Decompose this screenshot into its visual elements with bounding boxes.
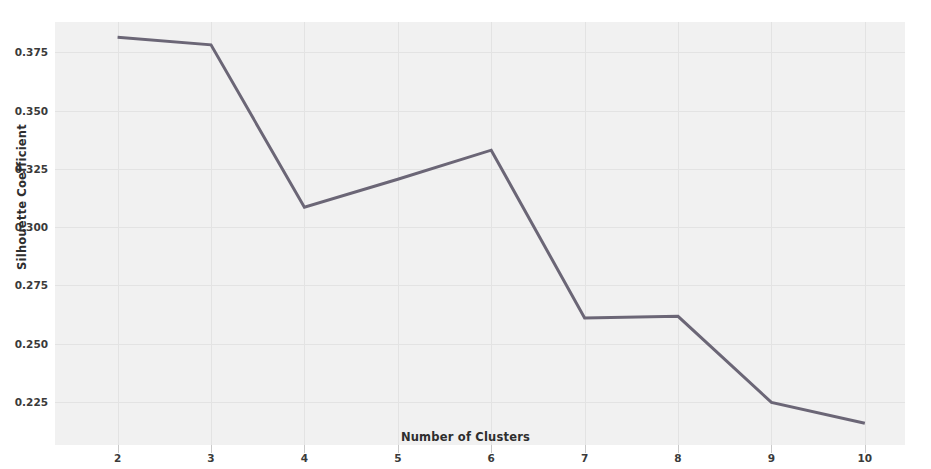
x-axis-tick-label: 2 bbox=[98, 452, 138, 464]
x-axis-tick-label: 10 bbox=[845, 452, 885, 464]
x-axis-tick-label: 7 bbox=[565, 452, 605, 464]
y-axis-label: Silhouette Coefficient bbox=[15, 87, 29, 307]
x-axis-tick-label: 8 bbox=[658, 452, 698, 464]
x-axis-tick-label: 4 bbox=[284, 452, 324, 464]
figure: 0.2250.2500.2750.3000.3250.3500.375 2345… bbox=[0, 0, 931, 469]
x-axis-tick-label: 3 bbox=[191, 452, 231, 464]
plot-area bbox=[55, 22, 905, 445]
line-series-silhouette-coefficient bbox=[118, 37, 865, 423]
y-axis-tick-label: 0.375 bbox=[0, 46, 48, 58]
y-axis-tick-label: 0.225 bbox=[0, 396, 48, 408]
x-axis-label: Number of Clusters bbox=[0, 430, 931, 444]
x-axis-tick-label: 5 bbox=[378, 452, 418, 464]
x-axis-tick-label: 9 bbox=[751, 452, 791, 464]
x-axis-tick-label: 6 bbox=[471, 452, 511, 464]
y-axis-tick-label: 0.250 bbox=[0, 338, 48, 350]
line-series-layer bbox=[55, 22, 905, 445]
